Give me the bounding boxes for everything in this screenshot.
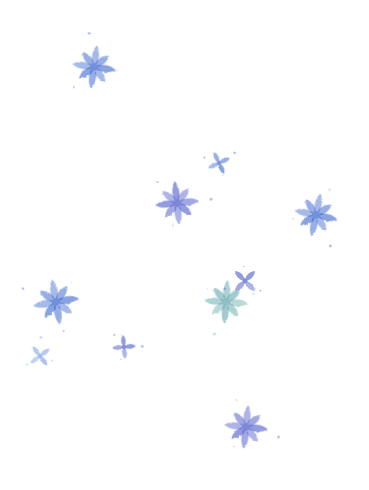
snowflake-illustration [0,0,369,490]
paint-splatter [260,290,262,292]
snowflake-center [243,279,248,284]
background [0,0,369,490]
paint-splatter [224,288,226,290]
paint-splatter [243,266,244,267]
